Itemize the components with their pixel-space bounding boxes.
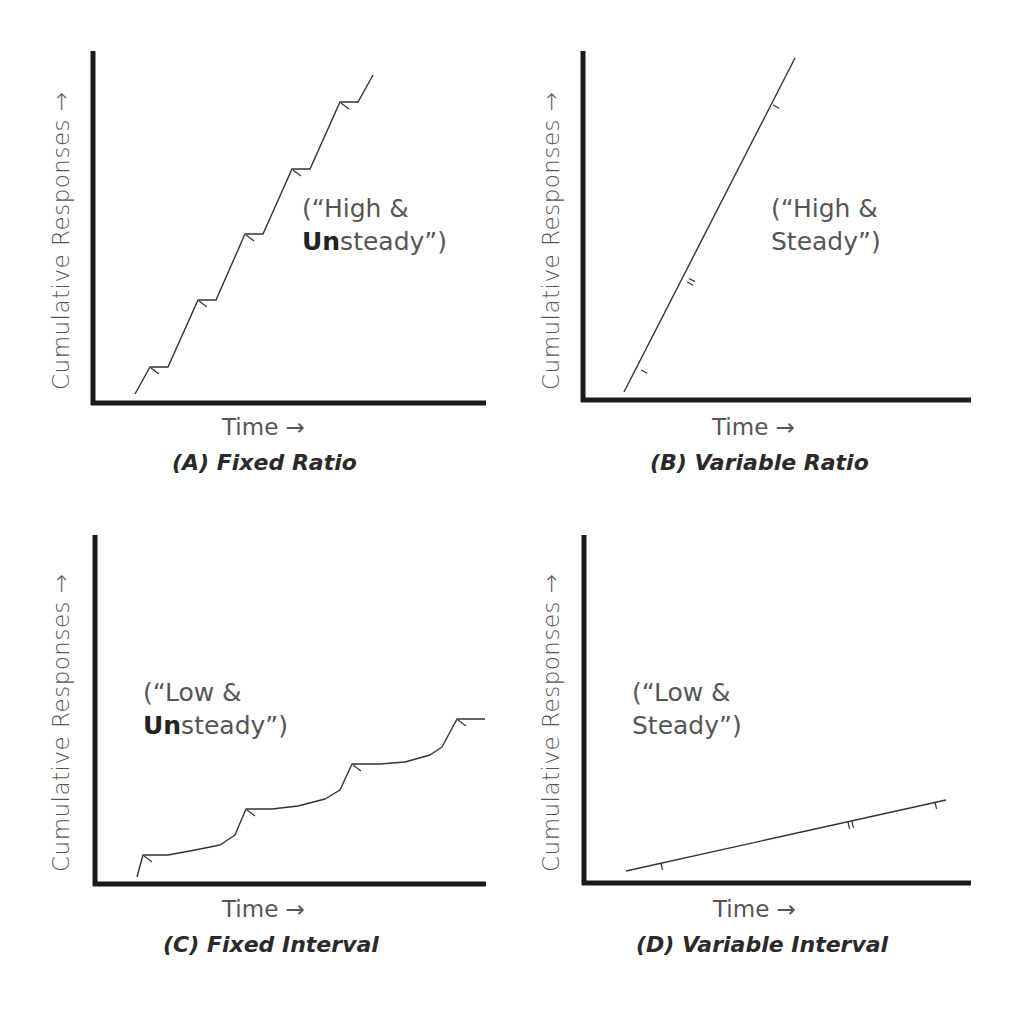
panel-d-annotation: (“Low & Steady”)	[632, 676, 742, 742]
panel-b-annotation-line1: (“High &	[771, 192, 881, 225]
schedules-chart-canvas	[0, 0, 1018, 1013]
annotation-emphasis: Un	[302, 227, 340, 256]
annotation-rest: steady”)	[340, 227, 447, 256]
annotation-emphasis: Un	[143, 711, 181, 740]
panel-b-caption: (B) Variable Ratio	[650, 450, 869, 475]
panel-d-annotation-line1: (“Low &	[632, 676, 742, 709]
panel-a-annotation-line2: Unsteady”)	[302, 225, 447, 258]
panel-c-caption: (C) Fixed Interval	[163, 932, 379, 957]
panel-d-x-axis-label: Time →	[713, 896, 796, 922]
panel-b-x-axis-label: Time →	[712, 414, 795, 440]
variable-ratio-curve	[624, 58, 795, 392]
annotation-rest: Steady”)	[771, 227, 881, 256]
panel-a-caption: (A) Fixed Ratio	[172, 450, 357, 475]
panel-a-x-axis-label: Time →	[222, 414, 305, 440]
panel-a-annotation-line1: (“High &	[302, 192, 447, 225]
panel-b-annotation-line2: Steady”)	[771, 225, 881, 258]
panel-b-annotation: (“High & Steady”)	[771, 192, 881, 258]
panel-a-y-axis-label: Cumulative Responses →	[48, 91, 74, 390]
variable-interval-curve	[626, 800, 946, 871]
panel-c-annotation: (“Low & Unsteady”)	[143, 676, 288, 742]
panel-d-annotation-line2: Steady”)	[632, 709, 742, 742]
panel-d-caption: (D) Variable Interval	[636, 932, 888, 957]
fixed-interval-curve	[137, 719, 485, 877]
annotation-rest: steady”)	[181, 711, 288, 740]
annotation-rest: Steady”)	[632, 711, 742, 740]
panel-c-y-axis-label: Cumulative Responses →	[48, 573, 74, 872]
panel-c-x-axis-label: Time →	[222, 896, 305, 922]
panel-a-annotation: (“High & Unsteady”)	[302, 192, 447, 258]
panel-b-y-axis-label: Cumulative Responses →	[538, 91, 564, 390]
panel-d-y-axis-label: Cumulative Responses →	[538, 573, 564, 872]
panel-c-annotation-line2: Unsteady”)	[143, 709, 288, 742]
panel-c-annotation-line1: (“Low &	[143, 676, 288, 709]
